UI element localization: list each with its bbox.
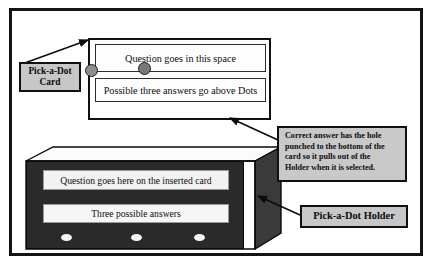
pick-a-dot-card: Question goes in this space Possible thr… xyxy=(88,38,271,120)
card-question-field: Question goes in this space xyxy=(95,44,266,72)
card-answers-field: Possible three answers go above Dots xyxy=(95,78,266,102)
holder-dot-2-icon[interactable] xyxy=(131,234,142,241)
label-pick-a-dot-card: Pick-a-Dot Card xyxy=(19,62,81,92)
card-dot-2-icon[interactable] xyxy=(85,64,98,77)
callout-line-4: Holder when it is selected. xyxy=(285,163,400,174)
holder-front-face: Question goes here on the inserted card … xyxy=(26,161,244,249)
card-dot-3-correct-icon[interactable] xyxy=(138,62,151,75)
callout-line-3: card so it pulls out of the xyxy=(285,152,400,163)
holder-question-strip: Question goes here on the inserted card xyxy=(43,170,229,190)
label-pick-a-dot-card-text: Pick-a-Dot Card xyxy=(28,66,71,89)
callout-correct-answer: Correct answer has the hole punched to t… xyxy=(277,126,407,182)
holder-dot-3-icon[interactable] xyxy=(194,234,205,241)
label-card-line2: Card xyxy=(40,77,61,87)
figure-container: Question goes in this space Possible thr… xyxy=(0,0,433,273)
label-pick-a-dot-holder-text: Pick-a-Dot Holder xyxy=(313,210,395,223)
holder-dot-1-icon[interactable] xyxy=(61,234,72,241)
label-pick-a-dot-holder: Pick-a-Dot Holder xyxy=(300,205,408,228)
callout-line-1: Correct answer has the hole xyxy=(285,131,400,142)
pick-a-dot-holder: Question goes here on the inserted card … xyxy=(26,147,281,252)
callout-line-2: punched to the bottom of the xyxy=(285,142,400,153)
holder-answers-strip: Three possible answers xyxy=(43,204,229,223)
label-card-line1: Pick-a-Dot xyxy=(28,66,71,76)
